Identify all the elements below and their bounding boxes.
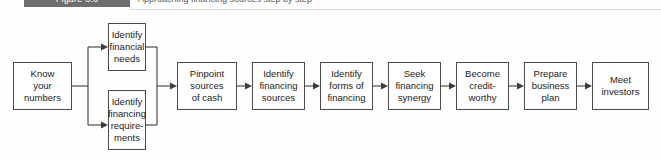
node-line: Identify [327,68,365,80]
figure-caption-strip: Figure 8.3 Approaching financing sources… [0,0,661,11]
node-line: Identify [110,29,145,41]
figure-caption-title: Approaching financing sources step by st… [138,0,312,7]
node-seek-financing-synergy[interactable]: Seek financing synergy [388,62,441,110]
node-become-creditworthy[interactable]: Become credit- worthy [456,62,509,110]
node-line: sources [190,80,224,92]
node-line: Know [24,68,61,80]
node-pinpoint-sources-of-cash[interactable]: Pinpoint sources of cash [177,62,237,110]
node-line: Seek [395,68,433,80]
node-identify-financing-requirements[interactable]: Identify financing require- ments [108,90,146,150]
node-line: Prepare [532,68,570,80]
node-line: financing [395,80,433,92]
node-line: forms of [327,80,365,92]
node-prepare-business-plan[interactable]: Prepare business plan [524,62,577,110]
node-line: require- [108,120,146,132]
node-line: financing [108,108,146,120]
node-line: business [532,80,570,92]
node-line: numbers [24,92,61,104]
node-know-your-numbers[interactable]: Know your numbers [13,62,72,110]
node-line: your [24,80,61,92]
node-line: needs [110,53,145,65]
node-identify-financing-sources[interactable]: Identify financing sources [252,62,305,110]
node-line: Identify [108,96,146,108]
figure-number-tab: Figure 8.3 [24,0,130,7]
node-line: of cash [190,92,224,104]
node-line: Identify [259,68,297,80]
node-identify-forms-of-financing[interactable]: Identify forms of financing [320,62,373,110]
caption-underline [130,9,661,10]
node-line: worthy [465,92,500,104]
node-line: financial [110,41,145,53]
node-line: sources [259,92,297,104]
node-line: Pinpoint [190,68,224,80]
node-identify-financial-needs[interactable]: Identify financial needs [108,23,146,71]
node-meet-investors[interactable]: Meet investors [592,62,649,110]
node-line: Meet [601,74,639,86]
node-line: synergy [395,92,433,104]
node-line: credit- [465,80,500,92]
figure-container: Figure 8.3 Approaching financing sources… [0,0,661,160]
process-flow-diagram: Know your numbers Identify financial nee… [0,11,661,160]
node-line: Become [465,68,500,80]
node-line: financing [327,92,365,104]
node-line: plan [532,92,570,104]
node-line: investors [601,86,639,98]
node-line: ments [108,132,146,144]
node-line: financing [259,80,297,92]
